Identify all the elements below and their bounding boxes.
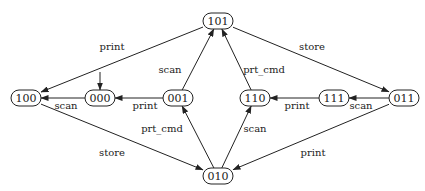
edge-101-to-100 <box>41 27 203 92</box>
edge-label: print <box>285 100 310 111</box>
state-node-label: 111 <box>324 92 345 105</box>
state-node-101: 101 <box>203 13 233 29</box>
edge-label: store <box>299 41 325 52</box>
state-node-111: 111 <box>319 90 349 106</box>
state-node-label: 011 <box>394 92 415 105</box>
state-node-label: 001 <box>168 92 189 105</box>
state-node-label: 100 <box>16 92 37 105</box>
state-node-011: 011 <box>389 90 419 106</box>
state-diagram: printprintscanscanprt_cmdstoreprt_cmdsto… <box>0 0 425 191</box>
edge-label: scan <box>158 64 182 75</box>
edge-label: scan <box>243 123 267 134</box>
state-node-label: 101 <box>208 15 229 28</box>
edge-label: print <box>301 147 326 158</box>
state-node-label: 010 <box>208 170 229 183</box>
state-node-000: 000 <box>85 90 115 106</box>
edge-101-to-011 <box>233 27 389 92</box>
edge-label: store <box>99 147 125 158</box>
edge-110-to-101 <box>222 29 251 90</box>
edge-label: print <box>100 41 125 52</box>
edge-label: prt_cmd <box>243 64 285 76</box>
state-node-010: 010 <box>203 168 233 184</box>
edge-100-to-010 <box>41 104 203 170</box>
state-node-label: 110 <box>245 92 266 105</box>
state-node-label: 000 <box>90 92 111 105</box>
edge-010-to-001 <box>182 106 214 168</box>
state-node-110: 110 <box>240 90 270 106</box>
edge-011-to-010 <box>233 104 389 169</box>
edge-label: scan <box>54 100 78 111</box>
edge-001-to-101 <box>182 29 214 90</box>
state-node-001: 001 <box>163 90 193 106</box>
edge-label: print <box>133 100 158 111</box>
state-node-100: 100 <box>11 90 41 106</box>
edge-label: scan <box>349 100 373 111</box>
edge-010-to-110 <box>222 106 251 168</box>
edge-label: prt_cmd <box>141 123 183 135</box>
